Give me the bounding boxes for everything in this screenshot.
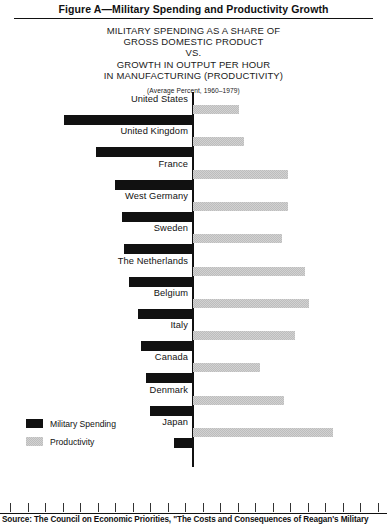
productivity-bar <box>193 105 239 114</box>
military-bar <box>141 341 194 351</box>
title-divider <box>14 18 373 19</box>
category-label: Japan <box>162 417 188 427</box>
tick-mark <box>273 503 274 512</box>
legend-label-productivity: Productivity <box>50 437 94 447</box>
category-label: Canada <box>155 352 188 362</box>
productivity-bar <box>193 363 260 372</box>
tick-mark <box>98 503 99 512</box>
military-bar <box>96 147 194 157</box>
productivity-bar <box>193 267 305 276</box>
subtitle-line-5: IN MANUFACTURING (PRODUCTIVITY) <box>0 70 387 81</box>
tick-mark <box>45 503 46 512</box>
tick-mark <box>10 503 11 512</box>
figure-title: Figure A—Military Spending and Productiv… <box>0 3 387 15</box>
productivity-bar <box>193 234 282 243</box>
subtitle-line-4: GROWTH IN OUTPUT PER HOUR <box>0 59 387 70</box>
productivity-bar <box>193 170 288 179</box>
category-label: United States <box>131 94 188 104</box>
tick-mark <box>308 503 309 512</box>
category-label: The Netherlands <box>118 256 188 266</box>
military-bar <box>124 244 194 254</box>
tick-mark <box>290 503 291 512</box>
military-bar <box>138 309 194 319</box>
category-label: Italy <box>170 320 188 330</box>
military-bar <box>150 406 194 416</box>
productivity-bar <box>193 137 244 146</box>
subtitle-line-2: GROSS DOMESTIC PRODUCT <box>0 36 387 47</box>
category-label: United Kingdom <box>120 126 188 136</box>
chart-row: United States <box>0 94 387 126</box>
chart-row: Italy <box>0 320 387 352</box>
productivity-bar <box>193 299 309 308</box>
tick-mark <box>28 503 29 512</box>
bottom-tick-marks <box>0 503 387 513</box>
chart-subtitle: MILITARY SPENDING AS A SHARE OF GROSS DO… <box>0 25 387 81</box>
tick-mark <box>80 503 81 512</box>
chart-row: The Netherlands <box>0 256 387 288</box>
chart-row: West Germany <box>0 191 387 223</box>
chart-legend: Military Spending Productivity <box>26 416 116 452</box>
tick-mark <box>238 503 239 512</box>
productivity-bar <box>193 331 295 340</box>
productivity-bar <box>193 396 284 405</box>
military-bar <box>146 373 193 383</box>
chart-row: Sweden <box>0 223 387 255</box>
category-label: Belgium <box>154 288 188 298</box>
tick-mark <box>168 503 169 512</box>
tick-mark <box>203 503 204 512</box>
subtitle-line-3: VS. <box>0 47 387 58</box>
tick-mark <box>255 503 256 512</box>
tick-mark <box>115 503 116 512</box>
military-bar <box>122 212 194 222</box>
chart-row: United Kingdom <box>0 126 387 158</box>
chart-row: France <box>0 159 387 191</box>
source-divider <box>0 513 387 514</box>
tick-mark <box>360 503 361 512</box>
tick-mark <box>343 503 344 512</box>
category-label: France <box>158 159 188 169</box>
subtitle-line-1: MILITARY SPENDING AS A SHARE OF <box>0 25 387 36</box>
legend-label-military: Military Spending <box>50 419 116 429</box>
category-label: Denmark <box>150 385 188 395</box>
source-note: Source: The Council on Economic Prioriti… <box>2 515 387 524</box>
chart-row: Belgium <box>0 288 387 320</box>
tick-mark <box>63 503 64 512</box>
tick-mark <box>133 503 134 512</box>
military-bar <box>115 180 194 190</box>
military-swatch-icon <box>26 419 43 428</box>
productivity-bar <box>193 428 333 437</box>
tick-mark <box>220 503 221 512</box>
tick-mark <box>378 503 379 512</box>
productivity-swatch-icon <box>26 437 43 446</box>
military-bar <box>174 438 193 448</box>
productivity-bar <box>193 202 288 211</box>
tick-mark <box>150 503 151 512</box>
chart-row: Denmark <box>0 385 387 417</box>
chart-row: Canada <box>0 352 387 384</box>
category-label: West Germany <box>125 191 188 201</box>
military-bar <box>129 277 194 287</box>
military-bar <box>64 115 194 125</box>
tick-mark <box>185 503 186 512</box>
category-label: Sweden <box>154 223 188 233</box>
tick-mark <box>325 503 326 512</box>
legend-item-military: Military Spending <box>26 416 116 431</box>
legend-item-productivity: Productivity <box>26 434 116 449</box>
